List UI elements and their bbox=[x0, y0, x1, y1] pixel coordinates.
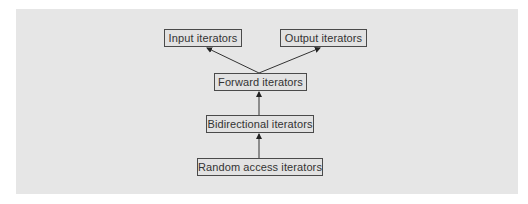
node-output-iterators: Output iterators bbox=[280, 29, 367, 47]
node-bidirectional-iterators: Bidirectional iterators bbox=[206, 115, 314, 133]
edge-forward-to-input bbox=[207, 48, 259, 73]
edge-forward-to-output bbox=[259, 48, 320, 73]
node-forward-iterators: Forward iterators bbox=[214, 73, 307, 91]
node-random-access-iterators: Random access iterators bbox=[197, 158, 323, 176]
node-input-iterators: Input iterators bbox=[164, 29, 242, 47]
